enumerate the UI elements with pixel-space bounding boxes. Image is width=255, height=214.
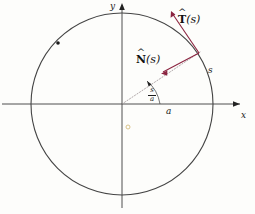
angle-fraction-numerator: s xyxy=(148,87,156,94)
normal-argument: (s) xyxy=(146,53,160,66)
normal-hat-icon: ^ xyxy=(137,47,145,57)
diagram-svg xyxy=(0,0,255,214)
angle-fraction-s-over-a: s a xyxy=(148,87,156,104)
normal-vector-label: ^N(s) xyxy=(136,54,160,65)
y-axis-label: y xyxy=(110,2,115,11)
y-axis-arrowhead xyxy=(119,3,125,10)
circle-point-marker xyxy=(56,41,60,45)
x-axis-arrowhead xyxy=(233,101,240,107)
tangent-argument: (s) xyxy=(186,13,200,26)
tangent-hat-icon: ^ xyxy=(178,7,186,17)
interior-dot-marker xyxy=(126,125,130,129)
normal-vector-line xyxy=(163,53,199,72)
tangent-symbol: ^T xyxy=(178,14,186,25)
arclength-label-s: s xyxy=(208,66,213,75)
radius-dotted-line xyxy=(122,52,200,104)
normal-symbol: ^N xyxy=(136,54,146,65)
angle-fraction-denominator: a xyxy=(148,96,156,103)
x-axis-label: x xyxy=(241,111,246,120)
radius-label-a: a xyxy=(166,107,171,116)
figure-canvas: x y a s s a ^T(s) ^N(s) xyxy=(0,0,255,214)
tangent-vector-label: ^T(s) xyxy=(178,14,200,25)
